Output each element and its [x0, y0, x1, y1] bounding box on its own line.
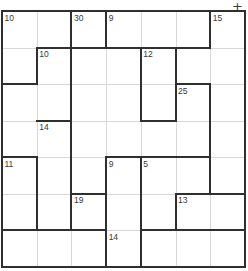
grid-cell-r1c3[interactable] [72, 12, 106, 48]
grid-cell-r7c5[interactable] [142, 231, 176, 267]
grid-cell-r6c2[interactable] [38, 195, 72, 231]
grid-cell-r1c6[interactable] [177, 12, 211, 48]
grid-cell-r6c5[interactable] [142, 195, 176, 231]
grid-cell-r4c7[interactable] [211, 122, 245, 158]
grid-cell-r5c5[interactable] [142, 158, 176, 194]
grid-cell-r2c3[interactable] [72, 49, 106, 85]
grid-cell-r7c1[interactable] [3, 231, 37, 267]
grid-cell-r6c4[interactable] [107, 195, 141, 231]
grid-cell-r4c3[interactable] [72, 122, 106, 158]
grid-cell-r3c1[interactable] [3, 85, 37, 121]
grid-cell-r1c7[interactable] [211, 12, 245, 48]
grid-cell-r1c4[interactable] [107, 12, 141, 48]
grid-cell-r5c4[interactable] [107, 158, 141, 194]
grid-cell-r7c7[interactable] [211, 231, 245, 267]
grid-cell-r4c4[interactable] [107, 122, 141, 158]
grid-cell-r3c4[interactable] [107, 85, 141, 121]
grid-cell-r3c5[interactable] [142, 85, 176, 121]
grid-cell-r7c2[interactable] [38, 231, 72, 267]
grid-cell-r2c6[interactable] [177, 49, 211, 85]
grid-cell-r4c6[interactable] [177, 122, 211, 158]
grid-cell-r4c2[interactable] [38, 122, 72, 158]
grid-cell-r6c7[interactable] [211, 195, 245, 231]
puzzle-container: + 1030915101225141195191314 [0, 0, 248, 271]
grid-cell-r7c4[interactable] [107, 231, 141, 267]
grid-cell-r2c1[interactable] [3, 49, 37, 85]
grid-cell-r3c7[interactable] [211, 85, 245, 121]
grid-cell-r5c6[interactable] [177, 158, 211, 194]
grid-cell-r1c1[interactable] [3, 12, 37, 48]
grid-cell-r3c2[interactable] [38, 85, 72, 121]
grid-cell-r4c5[interactable] [142, 122, 176, 158]
grid-cell-r2c2[interactable] [38, 49, 72, 85]
grid-cell-r6c1[interactable] [3, 195, 37, 231]
grid-cell-r2c4[interactable] [107, 49, 141, 85]
grid-cell-r6c3[interactable] [72, 195, 106, 231]
grid-cell-r1c2[interactable] [38, 12, 72, 48]
grid-cell-r2c5[interactable] [142, 49, 176, 85]
grid-cell-r5c1[interactable] [3, 158, 37, 194]
grid-cell-r2c7[interactable] [211, 49, 245, 85]
grid-cell-r4c1[interactable] [3, 122, 37, 158]
grid-cell-r5c7[interactable] [211, 158, 245, 194]
grid-cell-r5c3[interactable] [72, 158, 106, 194]
grid-cell-r1c5[interactable] [142, 12, 176, 48]
grid-cell-r6c6[interactable] [177, 195, 211, 231]
grid-cell-r7c3[interactable] [72, 231, 106, 267]
puzzle-grid[interactable]: 1030915101225141195191314 [2, 11, 245, 267]
grid-cell-r3c3[interactable] [72, 85, 106, 121]
grid-cell-r5c2[interactable] [38, 158, 72, 194]
grid-cell-r3c6[interactable] [177, 85, 211, 121]
grid-cell-r7c6[interactable] [177, 231, 211, 267]
